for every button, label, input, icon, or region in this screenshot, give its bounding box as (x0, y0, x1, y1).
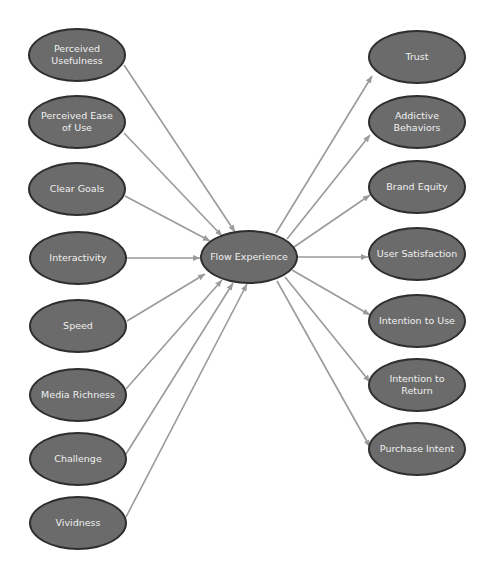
node-label: Purchase Intent (374, 443, 460, 455)
node-label: Perceived Usefulness (30, 43, 124, 67)
node-sp: Speed (29, 299, 127, 353)
node-itr: Intention to Return (368, 358, 466, 412)
node-label: Intention to Return (370, 373, 464, 397)
node-tr: Trust (368, 30, 466, 84)
edge-pu-to-flow (124, 65, 235, 232)
edges-layer (0, 0, 493, 579)
node-pu: Perceived Usefulness (28, 28, 126, 82)
node-peu: Perceived Ease of Use (28, 95, 126, 149)
node-mr: Media Richness (29, 368, 127, 422)
node-us: User Satisfaction (368, 227, 466, 281)
node-label: Addictive Behaviors (370, 110, 464, 134)
edge-sp-to-flow (127, 274, 205, 321)
node-label: Vividness (50, 517, 107, 529)
edge-flow-to-itr (285, 277, 370, 382)
node-flow: Flow Experience (200, 230, 298, 284)
node-label: Speed (57, 320, 99, 332)
edge-vi-to-flow (126, 284, 247, 517)
flow-experience-diagram: Perceived UsefulnessPerceived Ease of Us… (0, 0, 493, 579)
node-int: Interactivity (29, 231, 127, 285)
node-label: Media Richness (35, 389, 121, 401)
node-pi: Purchase Intent (368, 422, 466, 476)
node-ab: Addictive Behaviors (368, 95, 466, 149)
node-label: User Satisfaction (371, 248, 463, 260)
node-cg: Clear Goals (28, 162, 126, 216)
node-label: Perceived Ease of Use (30, 110, 124, 134)
node-label: Trust (399, 51, 434, 63)
node-label: Intention to Use (373, 315, 461, 327)
edge-flow-to-tr (276, 76, 372, 233)
edge-cg-to-flow (125, 196, 210, 241)
node-label: Interactivity (43, 252, 112, 264)
node-label: Brand Equity (380, 181, 453, 193)
edge-mr-to-flow (126, 280, 222, 389)
node-label: Clear Goals (44, 183, 110, 195)
node-be: Brand Equity (368, 160, 466, 214)
node-vi: Vividness (29, 496, 127, 550)
node-label: Flow Experience (204, 251, 294, 263)
node-itu: Intention to Use (368, 294, 466, 348)
edge-flow-to-itu (292, 270, 370, 315)
edge-ch-to-flow (126, 283, 233, 454)
node-ch: Challenge (29, 432, 127, 486)
node-label: Challenge (48, 453, 108, 465)
edge-flow-to-be (294, 195, 370, 247)
